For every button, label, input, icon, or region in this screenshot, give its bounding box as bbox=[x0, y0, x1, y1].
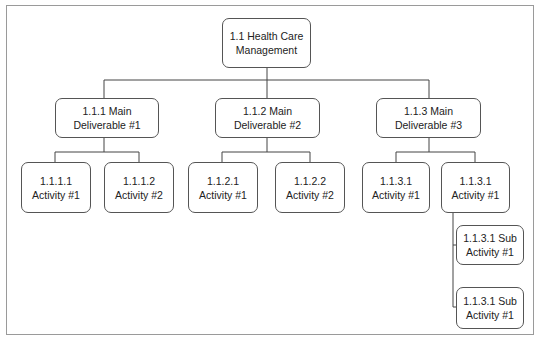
activity-label-line2: Activity #1 bbox=[32, 188, 80, 202]
activity-label-line2: Activity #2 bbox=[115, 188, 163, 202]
activity-label-line1: 1.1.2.1 bbox=[207, 174, 239, 188]
sub-activity-label-line1: 1.1.3.1 Sub bbox=[463, 294, 517, 308]
root-label-line2: Management bbox=[236, 43, 297, 57]
sub-activity-node-1[interactable]: 1.1.3.1 Sub Activity #1 bbox=[456, 225, 524, 265]
deliverable-label-line2: Deliverable #2 bbox=[234, 118, 301, 132]
deliverable-label-line1: 1.1.1 Main bbox=[82, 104, 131, 118]
activity-node-2-1[interactable]: 1.1.2.1 Activity #1 bbox=[188, 162, 258, 213]
root-label-line1: 1.1 Health Care bbox=[230, 29, 304, 43]
deliverable-label-line1: 1.1.3 Main bbox=[404, 104, 453, 118]
deliverable-node-3[interactable]: 1.1.3 Main Deliverable #3 bbox=[376, 98, 481, 138]
sub-activity-label-line1: 1.1.3.1 Sub bbox=[463, 231, 517, 245]
activity-label-line1: 1.1.3.1 bbox=[459, 174, 491, 188]
activity-label-line2: Activity #2 bbox=[286, 188, 334, 202]
sub-activity-label-line2: Activity #1 bbox=[466, 245, 514, 259]
activity-label-line2: Activity #1 bbox=[372, 188, 420, 202]
deliverable-node-1[interactable]: 1.1.1 Main Deliverable #1 bbox=[55, 98, 159, 138]
activity-label-line2: Activity #1 bbox=[199, 188, 247, 202]
activity-label-line2: Activity #1 bbox=[452, 188, 500, 202]
deliverable-label-line2: Deliverable #3 bbox=[395, 118, 462, 132]
deliverable-label-line2: Deliverable #1 bbox=[73, 118, 140, 132]
activity-node-2-2[interactable]: 1.1.2.2 Activity #2 bbox=[275, 162, 345, 213]
activity-label-line1: 1.1.2.2 bbox=[294, 174, 326, 188]
activity-node-3-2[interactable]: 1.1.3.1 Activity #1 bbox=[441, 162, 510, 213]
root-node[interactable]: 1.1 Health Care Management bbox=[222, 18, 311, 68]
activity-node-1-2[interactable]: 1.1.1.2 Activity #2 bbox=[104, 162, 174, 213]
deliverable-label-line1: 1.1.2 Main bbox=[243, 104, 292, 118]
sub-activity-label-line2: Activity #1 bbox=[466, 308, 514, 322]
activity-node-1-1[interactable]: 1.1.1.1 Activity #1 bbox=[21, 162, 91, 213]
deliverable-node-2[interactable]: 1.1.2 Main Deliverable #2 bbox=[215, 98, 320, 138]
activity-label-line1: 1.1.1.2 bbox=[123, 174, 155, 188]
activity-node-3-1[interactable]: 1.1.3.1 Activity #1 bbox=[362, 162, 430, 213]
activity-label-line1: 1.1.1.1 bbox=[40, 174, 72, 188]
activity-label-line1: 1.1.3.1 bbox=[380, 174, 412, 188]
sub-activity-node-2[interactable]: 1.1.3.1 Sub Activity #1 bbox=[456, 287, 524, 329]
